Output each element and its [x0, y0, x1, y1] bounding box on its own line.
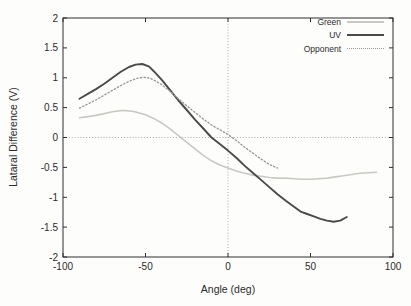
x-tick-label: 100 [385, 261, 402, 272]
legend-item-uv: UV [288, 29, 384, 43]
y-tick-label: -1.5 [41, 222, 59, 233]
x-tick-label: 50 [305, 261, 317, 272]
legend: Green UV Opponent [288, 15, 384, 56]
y-tick-label: 0 [52, 132, 58, 143]
x-axis-label: Angle (deg) [63, 283, 393, 295]
legend-line-green [347, 21, 384, 23]
y-tick-label: -0.5 [41, 162, 59, 173]
series-line-opponent [80, 77, 278, 168]
legend-line-opponent [347, 48, 384, 49]
x-tick-label: 0 [225, 261, 231, 272]
legend-item-green: Green [288, 15, 384, 29]
y-tick-label: -2 [49, 252, 58, 263]
chart-figure: -100-5005010021.510.50-0.5-1-1.5-2 Latar… [0, 0, 411, 306]
legend-item-opponent: Opponent [288, 42, 384, 56]
y-tick-label: 1.5 [44, 42, 58, 53]
x-tick-label: -100 [53, 261, 73, 272]
x-tick-label: -50 [138, 261, 153, 272]
legend-label-green: Green [317, 17, 341, 27]
series-line-uv [80, 64, 347, 222]
legend-label-opponent: Opponent [304, 44, 341, 54]
legend-line-uv [347, 34, 384, 36]
legend-label-uv: UV [329, 30, 341, 40]
y-tick-label: 1 [52, 72, 58, 83]
y-tick-label: 2 [52, 13, 58, 24]
y-axis-label: Lataral Difference (V) [7, 37, 21, 237]
y-tick-label: -1 [49, 192, 58, 203]
y-tick-label: 0.5 [44, 102, 58, 113]
